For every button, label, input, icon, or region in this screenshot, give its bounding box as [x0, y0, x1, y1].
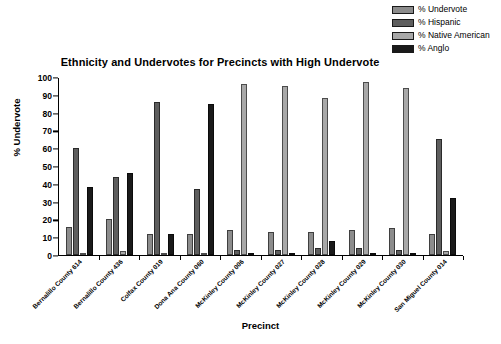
x-axis-labels: Bernalillo County 614Bernalillo County 4…	[58, 258, 463, 316]
bar	[436, 139, 442, 255]
bar	[363, 82, 369, 255]
y-tick-label: 80	[43, 109, 52, 119]
bar-group	[382, 78, 422, 255]
chart-title: Ethnicity and Undervotes for Precincts w…	[0, 56, 440, 68]
y-tick-label: 30	[43, 198, 52, 208]
y-tick-label: 90	[43, 91, 52, 101]
plot-area	[58, 78, 463, 256]
legend-item-undervote: % Undervote	[392, 4, 490, 15]
bar-chart: % Undervote % Hispanic % Native American…	[0, 0, 501, 344]
bar	[322, 98, 328, 255]
legend-item-native-american: % Native American	[392, 30, 490, 41]
bar	[282, 86, 288, 255]
legend-label-undervote: % Undervote	[418, 5, 467, 14]
bar	[275, 250, 281, 255]
x-axis-title: Precinct	[58, 320, 463, 331]
bar-group	[99, 78, 139, 255]
y-tick-label: 0	[47, 251, 52, 261]
legend-item-hispanic: % Hispanic	[392, 17, 490, 28]
bar-group	[221, 78, 261, 255]
legend-label-anglo: % Anglo	[418, 44, 449, 53]
y-tick-label: 60	[43, 144, 52, 154]
x-tick-mark	[463, 256, 464, 260]
y-axis-title: % Undervote	[11, 68, 22, 188]
bar	[73, 148, 79, 255]
bar	[396, 250, 402, 255]
y-axis: 0102030405060708090100	[0, 78, 58, 256]
bar-group	[423, 78, 463, 255]
bar	[208, 104, 214, 255]
bar	[241, 84, 247, 255]
bar-group	[140, 78, 180, 255]
bar-group	[342, 78, 382, 255]
bar	[66, 227, 72, 255]
y-tick-label: 70	[43, 126, 52, 136]
legend-swatch-native-american	[392, 32, 414, 40]
legend-label-native-american: % Native American	[418, 31, 490, 40]
y-tick-label: 20	[43, 215, 52, 225]
y-tick-label: 40	[43, 180, 52, 190]
bar	[403, 88, 409, 255]
bar-groups	[59, 78, 463, 255]
bar-group	[261, 78, 301, 255]
legend-swatch-undervote	[392, 6, 414, 14]
x-tick-label-text: Colfax County 019	[119, 258, 164, 303]
bar-group	[59, 78, 99, 255]
bar	[356, 248, 362, 255]
bar	[315, 248, 321, 255]
legend-swatch-anglo	[392, 45, 414, 53]
y-tick-label: 10	[43, 233, 52, 243]
bar-group	[301, 78, 341, 255]
legend-label-hispanic: % Hispanic	[418, 18, 461, 27]
bar	[234, 250, 240, 255]
legend-swatch-hispanic	[392, 19, 414, 27]
bar-group	[180, 78, 220, 255]
chart-legend: % Undervote % Hispanic % Native American…	[392, 4, 490, 54]
y-tick-label: 50	[43, 162, 52, 172]
y-tick-label: 100	[38, 73, 52, 83]
legend-item-anglo: % Anglo	[392, 43, 490, 54]
